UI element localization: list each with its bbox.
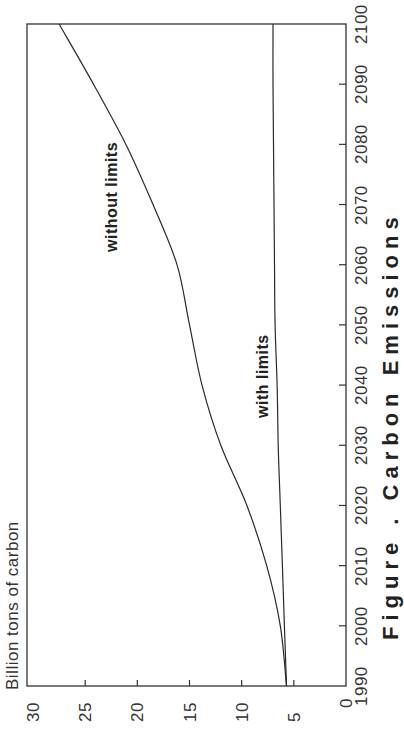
series-lines <box>59 24 286 686</box>
year-tick-label: 2010 <box>352 546 372 586</box>
value-tick-label: 25 <box>76 702 96 722</box>
value-tick-label: 30 <box>24 702 44 722</box>
year-tick-label: 2000 <box>352 606 372 646</box>
figure-caption: Figure . Carbon Emissions <box>378 211 404 640</box>
year-tick-label: 2070 <box>352 185 372 225</box>
year-tick-label: 2100 <box>352 4 372 44</box>
value-tick-label: 15 <box>181 702 201 722</box>
year-tick-label: 2050 <box>352 305 372 345</box>
series-label-without-limits: without limits <box>103 142 121 252</box>
value-tick-label: 5 <box>285 712 305 722</box>
value-axis-ticks <box>85 680 294 686</box>
year-tick-label: 2090 <box>352 64 372 104</box>
series-label-with-limits: with limits <box>254 334 272 418</box>
series-line-with-limits <box>273 24 287 686</box>
year-axis-ticks <box>339 84 346 626</box>
value-axis-title: Billion tons of carbon <box>3 521 23 690</box>
year-tick-label: 2080 <box>352 125 372 165</box>
year-tick-label: 2030 <box>352 425 372 465</box>
year-tick-label: 2040 <box>352 365 372 405</box>
plot-frame <box>27 24 346 686</box>
year-tick-label: 2020 <box>352 486 372 526</box>
series-line-without-limits <box>59 24 286 686</box>
year-tick-label: 2060 <box>352 245 372 285</box>
value-tick-label: 20 <box>128 702 148 722</box>
value-tick-label: 10 <box>233 702 253 722</box>
value-tick-label: 0 <box>337 698 357 708</box>
